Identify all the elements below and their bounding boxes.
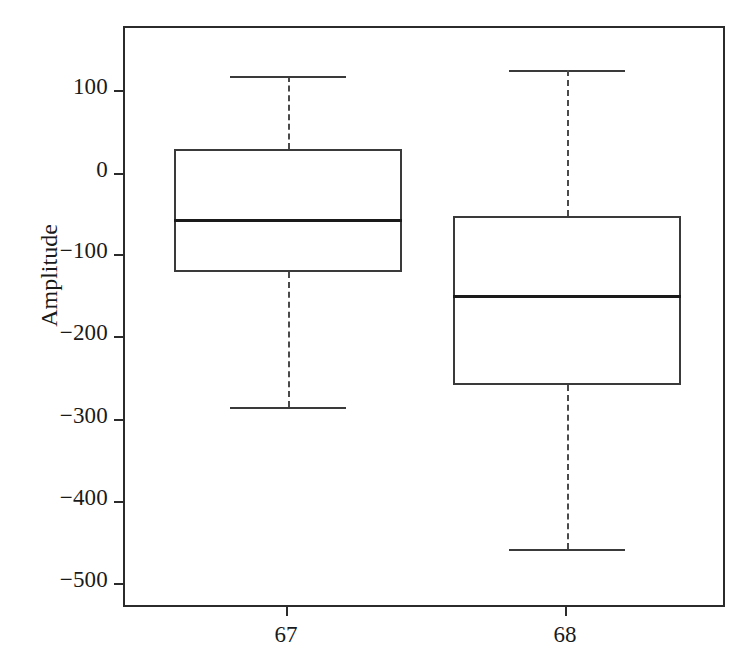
y-tick-label-m400: −400: [48, 485, 108, 511]
whisker-upper-line-67: [288, 76, 290, 149]
y-tick-mark-100: [114, 90, 123, 92]
x-tick-mark-67: [286, 607, 288, 616]
median-line-67: [174, 219, 402, 222]
median-line-68: [453, 295, 681, 298]
x-tick-label-67: 67: [246, 622, 326, 648]
box-rect-67: [174, 149, 402, 272]
y-tick-mark-m200: [114, 336, 123, 338]
whisker-lower-cap-67: [230, 407, 346, 409]
x-tick-label-68: 68: [525, 622, 605, 648]
y-tick-mark-m400: [114, 501, 123, 503]
whisker-lower-cap-68: [509, 549, 625, 551]
whisker-upper-cap-67: [230, 76, 346, 78]
plot-area: [123, 26, 725, 607]
y-tick-label-m300: −300: [48, 403, 108, 429]
whisker-upper-line-68: [567, 70, 569, 216]
y-tick-mark-m300: [114, 419, 123, 421]
y-tick-mark-0: [114, 173, 123, 175]
y-tick-label-100: 100: [48, 74, 108, 100]
whisker-lower-line-68: [567, 385, 569, 549]
y-tick-label-0: 0: [48, 157, 108, 183]
y-tick-label-m100: −100: [48, 238, 108, 264]
y-tick-mark-m500: [114, 583, 123, 585]
y-tick-label-m200: −200: [48, 320, 108, 346]
x-tick-mark-68: [565, 607, 567, 616]
box-rect-68: [453, 216, 681, 385]
y-tick-label-m500: −500: [48, 567, 108, 593]
whisker-lower-line-67: [288, 272, 290, 407]
y-tick-mark-m100: [114, 254, 123, 256]
boxplot-figure: Amplitude 100 0 −100 −200 −300 −400 −500…: [0, 0, 754, 669]
